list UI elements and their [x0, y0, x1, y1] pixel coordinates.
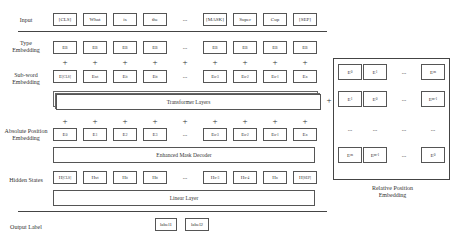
plus-icon: + [53, 58, 77, 67]
input-token: [CLS] [53, 13, 77, 26]
hidden-state-cell: Hwt [83, 171, 107, 184]
relative-position-cell: E0 [363, 91, 387, 107]
hidden-state-cell: Htt [143, 171, 167, 184]
plus-icon: + [143, 58, 167, 67]
type-embedding-cell: EB [53, 41, 77, 54]
hidden-state-cell: Hn-4 [233, 171, 257, 184]
plus-icon: + [113, 58, 137, 67]
label-line: Sub-word [4, 72, 48, 79]
ellipsis: ... [363, 126, 387, 132]
subword-embedding-cell: Ett [143, 70, 167, 83]
subscript: tt [156, 176, 158, 180]
subscript: wt [95, 75, 99, 79]
type-embedding-cell: EB [263, 41, 287, 54]
subword-embedding-cell: En-2 [233, 70, 257, 83]
ellipsis: ... [173, 131, 197, 137]
plus-icon: + [173, 58, 197, 67]
subword-embedding-cell: Ewt [83, 70, 107, 83]
plus-icon: + [83, 117, 107, 126]
input-token: What [83, 13, 107, 26]
input-token: Super [233, 13, 257, 26]
subscript: 0 [351, 70, 353, 74]
subscript: n-1 [274, 133, 279, 137]
subscript: [SEP] [303, 176, 311, 180]
label-hidden-states: Hidden States [4, 177, 48, 184]
relative-position-cell: Em-1 [421, 91, 445, 107]
input-token: [MASK] [203, 13, 227, 26]
subscript: it [126, 176, 128, 180]
ellipsis: ... [392, 69, 416, 75]
divider-bottom [18, 211, 327, 212]
subscript: B [275, 46, 277, 50]
label-output: Output Label [4, 224, 48, 231]
subword-embedding-cell: En [293, 70, 317, 83]
absolute-position-cell: E1 [83, 128, 107, 141]
ellipsis: ... [173, 44, 197, 50]
subword-embedding-cell: En-1 [263, 70, 287, 83]
subscript: m-1 [432, 97, 438, 101]
type-embedding-cell: EB [83, 41, 107, 54]
subscript: B [245, 46, 247, 50]
relative-position-cell: E0 [338, 64, 362, 80]
ellipsis: ... [173, 73, 197, 79]
relative-position-cell: Em [338, 147, 362, 163]
subscript: n-2 [244, 75, 249, 79]
absolute-position-cell: En-2 [233, 128, 257, 141]
subscript: B [215, 46, 217, 50]
ellipsis: ... [421, 126, 445, 132]
plus-icon: + [293, 58, 317, 67]
type-embedding-cell: EB [143, 41, 167, 54]
subscript: [CLS] [62, 75, 71, 79]
type-embedding-cell: EB [203, 41, 227, 54]
subscript: n-3 [214, 176, 219, 180]
linear-layer-block: Linear Layer [53, 190, 315, 206]
subscript: m-1 [374, 153, 380, 157]
ellipsis: ... [392, 96, 416, 102]
hidden-state-cell: H[CLS] [53, 171, 77, 184]
output-label-1: label1 [155, 218, 177, 231]
subword-embedding-cell: Eit [113, 70, 137, 83]
subscript: B [125, 46, 127, 50]
subscript: 2 [126, 133, 128, 137]
absolute-position-cell: E0 [53, 128, 77, 141]
label-input: Input [4, 17, 48, 24]
subscript: m [433, 70, 436, 74]
subscript: 0 [434, 153, 436, 157]
subscript: n-2 [244, 133, 249, 137]
absolute-position-cell: En-3 [203, 128, 227, 141]
subscript: n-3 [214, 75, 219, 79]
label-absolute-position: Absolute Position Embedding [0, 128, 52, 142]
subscript: n-1 [274, 75, 279, 79]
subword-embedding-cell: E[CLS] [53, 70, 77, 83]
subscript: tt [156, 75, 158, 79]
relative-position-matrix: E0E1...EmE1E0...Em-1............EmEm-1..… [333, 58, 450, 180]
hidden-state-cell: Hit [113, 171, 137, 184]
relative-position-cell: E1 [338, 91, 362, 107]
subscript: [CLS] [62, 176, 71, 180]
subscript: 0 [376, 97, 378, 101]
label-type-embedding: Type Embedding [4, 40, 48, 54]
plus-icon: + [203, 58, 227, 67]
ellipsis: ... [173, 174, 197, 180]
label-line: Embedding [345, 192, 440, 199]
label-subword-embedding: Sub-word Embedding [4, 72, 48, 86]
relative-position-cell: E1 [363, 64, 387, 80]
transformer-layers-block: Transformer Layers [56, 94, 321, 110]
divider-top [18, 31, 327, 32]
input-token: the [143, 13, 167, 26]
plus-icon: + [293, 117, 317, 126]
subscript: n [306, 133, 308, 137]
plus-icon: + [263, 58, 287, 67]
subscript: wt [95, 176, 99, 180]
plus-icon: + [233, 58, 257, 67]
subscript: n [276, 176, 278, 180]
subword-embedding-cell: En-3 [203, 70, 227, 83]
type-embedding-cell: EB [233, 41, 257, 54]
type-embedding-cell: EB [293, 41, 317, 54]
subscript: it [126, 75, 128, 79]
subscript: B [95, 46, 97, 50]
label-line: Embedding [0, 135, 52, 142]
absolute-position-cell: En-1 [263, 128, 287, 141]
plus-icon: + [113, 117, 137, 126]
input-token: [SEP] [293, 13, 317, 26]
